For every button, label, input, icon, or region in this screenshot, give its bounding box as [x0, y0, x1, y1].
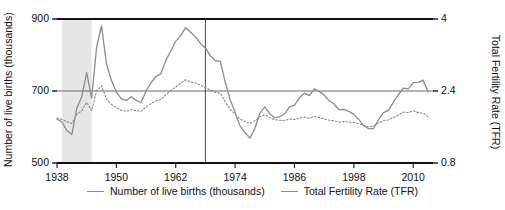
x-tick-1986: 1986: [279, 171, 309, 183]
y-axis-right-title: Total Fertility Rate (TFR): [490, 17, 502, 167]
legend-label-births: Number of live births (thousands): [110, 185, 265, 197]
x-tick-1998: 1998: [339, 171, 369, 183]
chart-legend: Number of live births (thousands) Total …: [0, 185, 505, 197]
x-tick-1950: 1950: [101, 171, 131, 183]
y-axis-left-title: Number of live births (thousands): [2, 17, 14, 167]
legend-item-tfr: Total Fertility Rate (TFR): [281, 185, 418, 197]
y-left-tick-700: 700: [31, 84, 49, 96]
x-tick-1938: 1938: [42, 171, 72, 183]
legend-item-births: Number of live births (thousands): [87, 185, 265, 197]
legend-swatch-tfr: [281, 191, 298, 192]
x-tick-2010: 2010: [398, 171, 428, 183]
y-right-tick-4: 4: [441, 12, 447, 24]
legend-label-tfr: Total Fertility Rate (TFR): [304, 185, 418, 197]
x-tick-1974: 1974: [220, 171, 250, 183]
y-right-tick-2.4: 2.4: [441, 84, 456, 96]
x-tick-1962: 1962: [161, 171, 191, 183]
y-left-tick-900: 900: [31, 12, 49, 24]
axis-ticks: [52, 19, 438, 168]
fertility-births-chart: Number of live births (thousands) Total …: [0, 0, 505, 210]
chart-canvas: [0, 0, 505, 210]
y-left-tick-500: 500: [31, 156, 49, 168]
legend-swatch-births: [87, 191, 104, 192]
data-series: [57, 26, 428, 138]
y-right-tick-0.8: 0.8: [441, 156, 456, 168]
